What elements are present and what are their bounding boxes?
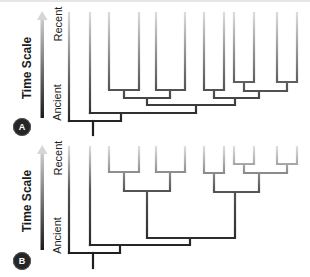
panel-badge-b: B (13, 252, 31, 270)
cladogram-a (0, 0, 310, 277)
axis-label-ancient-b: Ancient (51, 217, 64, 255)
axis-title-b: Time Scale (20, 169, 34, 233)
axis-title-a: Time Scale (20, 36, 34, 100)
axis-label-ancient-a: Ancient (51, 84, 64, 122)
axis-label-recent-b: Recent (52, 142, 65, 176)
panel-badge-a: A (13, 118, 31, 136)
time-arrow-a (37, 11, 48, 118)
axis-label-recent-a: Recent (52, 8, 65, 42)
tree-b-branches (69, 147, 297, 268)
time-arrow-b (37, 145, 48, 250)
tree-a-branches (69, 13, 297, 135)
